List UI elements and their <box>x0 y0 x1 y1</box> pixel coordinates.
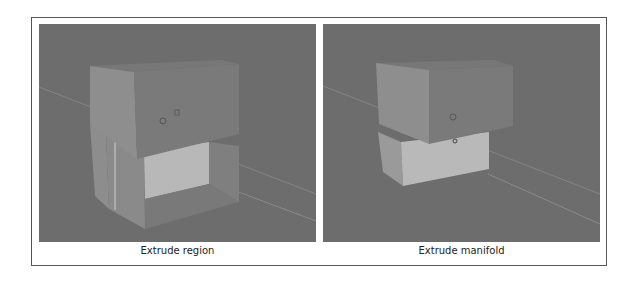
caption-extrude-region: Extrude region <box>39 244 316 258</box>
side-face <box>376 63 429 144</box>
front-face <box>429 66 513 144</box>
viewport-extrude-region <box>39 24 316 242</box>
viewport-extrude-manifold <box>323 24 600 242</box>
grid-axis-line-2 <box>488 174 600 224</box>
lower-left-face <box>378 132 403 186</box>
extrude-region-scene <box>39 24 316 242</box>
caption-extrude-manifold: Extrude manifold <box>323 244 600 258</box>
extrude-manifold-scene <box>323 24 600 242</box>
